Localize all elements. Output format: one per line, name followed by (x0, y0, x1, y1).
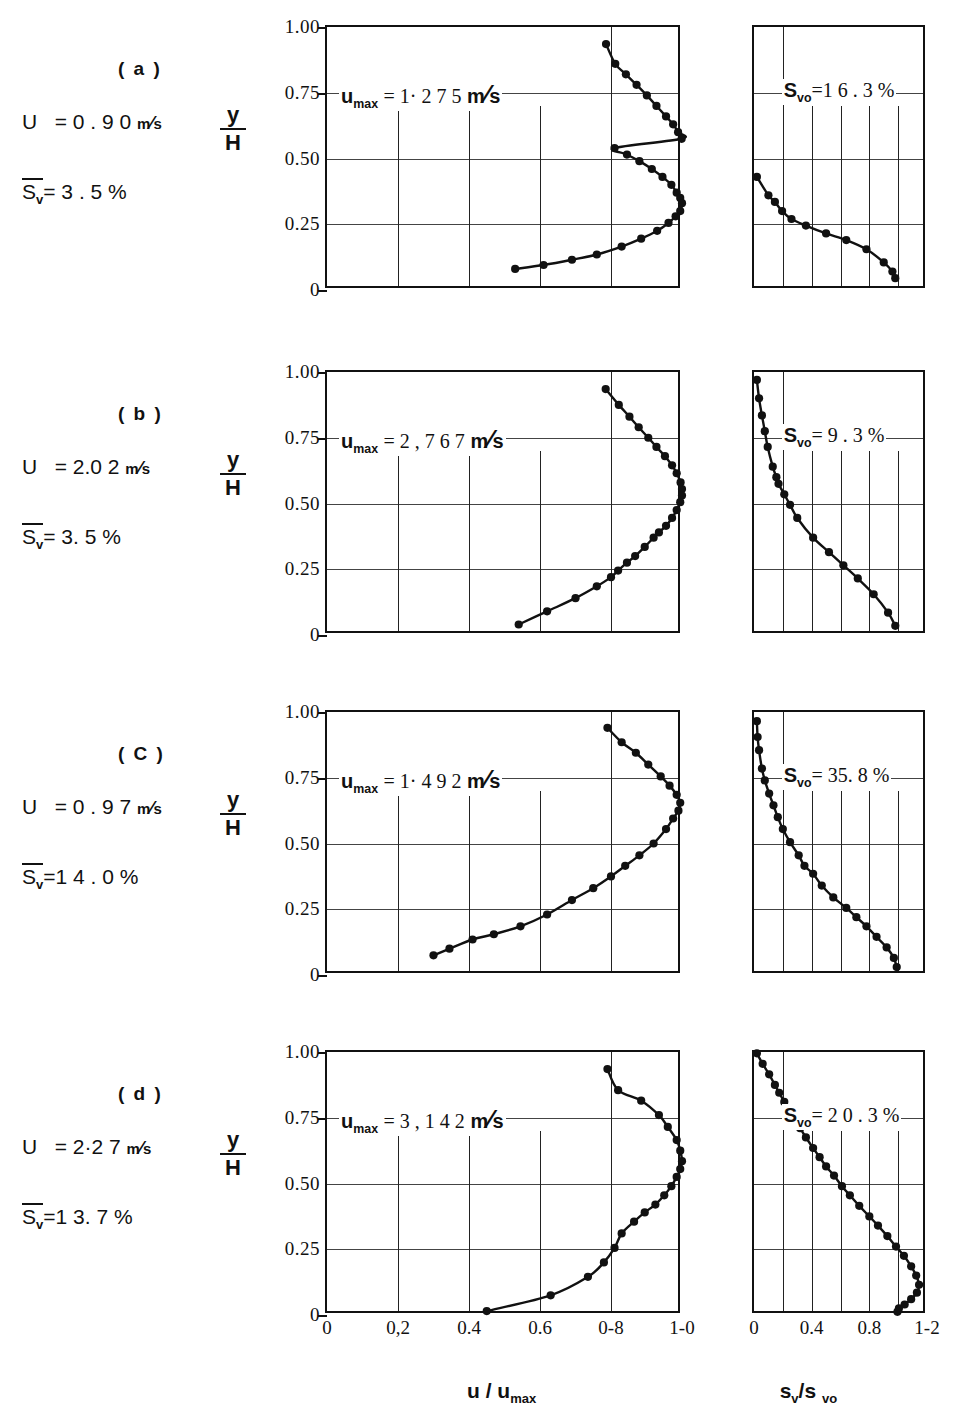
umax-symbol: umax (341, 430, 378, 452)
concentration-data-layer (754, 27, 927, 290)
data-point (780, 490, 788, 498)
data-point (891, 274, 899, 282)
y-tickmark-d-1 (318, 1118, 327, 1120)
data-point (753, 376, 761, 384)
u-value: = 0 . 9 7 (55, 795, 131, 818)
data-point (775, 1089, 783, 1097)
data-point (870, 590, 878, 598)
velocity-profile-plot-a: 1.000.750.500.250umax = 1· 2 7 5 m⁄s (325, 25, 680, 288)
data-point (822, 229, 830, 237)
data-point (825, 548, 833, 556)
data-point (769, 801, 777, 809)
data-point (664, 1123, 672, 1131)
x-tick-left-3: 0.6 (528, 1317, 552, 1339)
svo-value: =1 6 . 3 % (811, 79, 894, 101)
y-numerator: y (227, 447, 239, 472)
data-point (761, 427, 769, 435)
mean-velocity-label-c: U = 0 . 9 7 m⁄s (22, 795, 162, 819)
data-point (787, 215, 795, 223)
sv-unit: % (120, 865, 139, 888)
data-point (852, 913, 860, 921)
data-point (676, 799, 684, 807)
data-point (658, 173, 666, 181)
data-point (625, 413, 633, 421)
x-tick-left-4: 0-8 (598, 1317, 623, 1339)
velocity-fit-curve (519, 389, 683, 624)
data-point (543, 607, 551, 615)
data-point (547, 1291, 555, 1299)
concentration-data-layer (754, 1052, 927, 1315)
data-point (632, 81, 640, 89)
concentration-fit-curve (757, 177, 895, 278)
velocity-fit-curve (515, 44, 686, 269)
data-point (912, 1271, 920, 1279)
data-point (650, 839, 658, 847)
data-point (865, 1212, 873, 1220)
velocity-data-layer (327, 1052, 682, 1315)
data-point (614, 566, 622, 574)
data-point (648, 165, 656, 173)
data-point (676, 1165, 684, 1173)
u-value: = 0 . 9 0 (55, 110, 131, 133)
data-point (602, 40, 610, 48)
u-value: = 2·2 7 (55, 1135, 121, 1158)
data-point (891, 622, 899, 630)
data-point (907, 1262, 915, 1270)
data-point (543, 910, 551, 918)
y-tick-b-1: 0.75 (285, 426, 320, 448)
data-point (753, 173, 761, 181)
y-over-H-axis-label-b: yH (220, 449, 246, 499)
data-point (755, 394, 763, 402)
data-point (641, 1208, 649, 1216)
u-value: = 2.0 2 (55, 455, 120, 478)
svo-annotation-d: Svo= 2 0 . 3 % (782, 1104, 902, 1130)
y-tick-c-3: 0.25 (285, 898, 320, 920)
data-point (593, 582, 601, 590)
mean-concentration-label-a: Sv= 3 . 5 % (22, 178, 127, 206)
data-point (678, 1157, 686, 1165)
sv-symbol: Sv (22, 523, 43, 551)
data-point (483, 1307, 491, 1315)
data-point (661, 452, 669, 460)
x-tick-right-3: 1-2 (914, 1317, 939, 1339)
data-point (615, 401, 623, 409)
y-over-H-axis-label-c: yH (220, 789, 246, 839)
data-point (830, 1172, 838, 1180)
data-point (539, 261, 547, 269)
svo-value: = 9 . 3 % (811, 424, 884, 446)
umax-value: = 2 , 7 6 7 (384, 430, 465, 452)
data-point (607, 872, 615, 880)
data-point (795, 851, 803, 859)
data-point (892, 1243, 900, 1251)
data-point (603, 724, 611, 732)
sv-unit: % (108, 180, 127, 203)
data-point (618, 738, 626, 746)
H-denominator: H (225, 1155, 241, 1180)
data-point (765, 1070, 773, 1078)
data-point (809, 1144, 817, 1152)
data-point (668, 461, 676, 469)
data-point (846, 1191, 854, 1199)
data-point (774, 813, 782, 821)
data-point (600, 1258, 608, 1266)
data-point (893, 963, 901, 971)
y-tickmark-b-4 (318, 635, 327, 637)
y-tickmark-d-0 (318, 1052, 327, 1054)
svo-value: = 35. 8 % (811, 764, 889, 786)
data-point (809, 534, 817, 542)
data-point (842, 236, 850, 244)
mean-concentration-label-b: Sv= 3. 5 % (22, 523, 121, 551)
x-tick-right-0: 0 (749, 1317, 759, 1339)
u-symbol: U (22, 1135, 37, 1158)
y-tick-a-2: 0.50 (285, 147, 320, 169)
svo-annotation-b: Svo= 9 . 3 % (782, 424, 887, 450)
u-symbol: U (22, 795, 37, 818)
y-tick-d-1: 0.75 (285, 1106, 320, 1128)
panel-letter-c: ( C ) (118, 743, 165, 765)
panel-legend-a: ( a )U = 0 . 9 0 m⁄sSv= 3 . 5 % (0, 0, 262, 320)
data-point (900, 1252, 908, 1260)
u-unit: m⁄s (137, 800, 162, 817)
data-point (593, 250, 601, 258)
data-point (765, 789, 773, 797)
data-point (883, 1232, 891, 1240)
